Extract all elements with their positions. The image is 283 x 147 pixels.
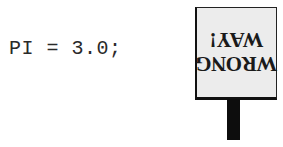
sign-line-way: WAY! — [209, 29, 263, 53]
sign-line-wrong: WRONG — [196, 53, 278, 77]
sign-board: WRONG WAY! — [195, 7, 277, 100]
sign-text-upside-down: WRONG WAY! — [197, 8, 276, 97]
code-statement: PI = 3.0; — [9, 38, 122, 60]
sign-post — [227, 99, 240, 140]
